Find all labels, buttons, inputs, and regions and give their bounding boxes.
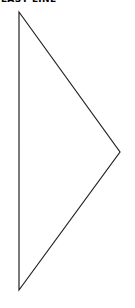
triangle-shape <box>0 0 135 308</box>
triangle-outline <box>19 12 120 290</box>
